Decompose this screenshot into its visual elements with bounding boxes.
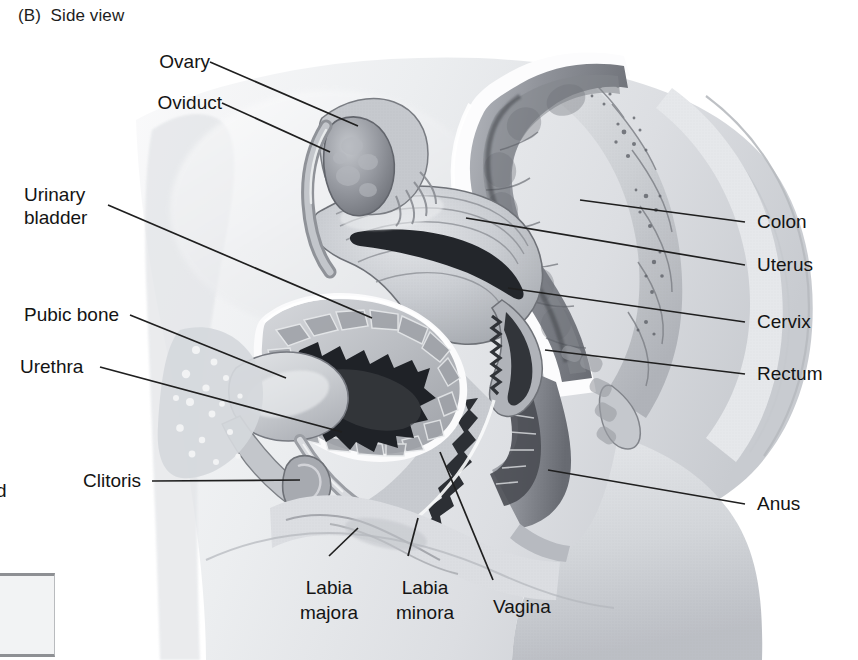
label-labia-majora-line1: Labia [276,576,382,599]
label-anus: Anus [757,492,858,515]
clipped-text-fragment: d [0,480,7,502]
label-cervix: Cervix [757,310,858,333]
label-labia-minora-line2: minora [372,601,478,624]
label-uterus: Uterus [757,253,858,276]
label-urethra: Urethra [20,355,180,378]
panel-title: (B) Side view [18,6,124,26]
label-colon: Colon [757,210,858,233]
clipped-corner-box [0,573,55,657]
label-vagina: Vagina [493,595,613,618]
label-ovary: Ovary [40,50,210,73]
label-urinary-bladder-line2: bladder [24,206,174,229]
label-clitoris: Clitoris [83,469,223,492]
label-oviduct: Oviduct [40,91,222,114]
label-labia-majora-line2: majora [276,601,382,624]
label-pubic-bone: Pubic bone [24,303,204,326]
label-urinary-bladder-line1: Urinary [24,183,174,206]
label-rectum: Rectum [757,362,858,385]
label-labia-minora-line1: Labia [372,576,478,599]
